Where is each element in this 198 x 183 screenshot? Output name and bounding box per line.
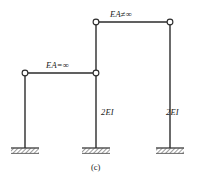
hinge-mid-right-icon bbox=[93, 70, 99, 76]
figure-caption: (c) bbox=[91, 163, 100, 172]
fixed-support-left-icon bbox=[11, 148, 39, 153]
hinge-mid-left-icon bbox=[22, 70, 28, 76]
right-column-label: 2EI bbox=[166, 108, 179, 117]
frame-diagram-figure: EA≠∞ EA=∞ 2EI 2EI (c) bbox=[0, 0, 198, 183]
mid-beam-label: EA=∞ bbox=[46, 61, 69, 70]
fixed-support-middle-icon bbox=[82, 148, 110, 153]
top-beam-label: EA≠∞ bbox=[110, 10, 132, 19]
fixed-support-right-icon bbox=[156, 148, 184, 153]
middle-column-label: 2EI bbox=[101, 108, 114, 117]
frame-structure-drawing bbox=[0, 0, 198, 183]
hinge-top-left-icon bbox=[93, 19, 99, 25]
hinge-top-right-icon bbox=[167, 19, 173, 25]
